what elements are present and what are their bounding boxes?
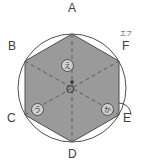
vertex-label-e: E (123, 112, 131, 124)
geometry-figure: A B C D E F O エフ え う か (0, 0, 144, 166)
center-label-o: O (66, 84, 75, 95)
vertex-label-c: C (7, 112, 16, 124)
vertex-label-b: B (8, 40, 16, 52)
furigana-label-f: エフ (120, 30, 131, 36)
angle-marker-ka: か (101, 103, 114, 116)
vertex-label-a: A (68, 2, 76, 14)
angle-marker-u: う (31, 103, 44, 116)
angle-marker-e: え (61, 59, 74, 72)
vertex-label-f: F (122, 40, 129, 52)
vertex-label-d: D (68, 148, 77, 160)
